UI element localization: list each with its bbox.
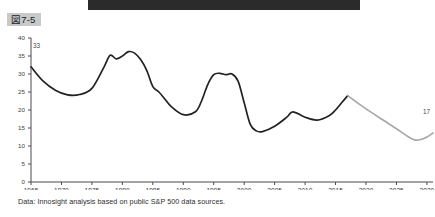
- data-point-label: 17: [423, 108, 431, 115]
- x-tick-label: 2015: [328, 187, 343, 190]
- x-tick-label: 1985: [145, 187, 160, 190]
- figure-root: 図7-5 0510152025303540 196519701975198019…: [0, 0, 435, 217]
- y-axis-ticks: 0510152025303540: [18, 34, 31, 185]
- series-line-historical: [31, 52, 348, 133]
- y-tick-label: 15: [18, 124, 25, 131]
- source-caption: Data: Innosight analysis based on public…: [18, 197, 225, 206]
- x-axis-ticks: 1965197019751980198519901995200020052010…: [24, 182, 435, 190]
- y-tick-label: 25: [18, 88, 25, 95]
- chart-svg: 0510152025303540 19651970197519801985199…: [0, 30, 435, 190]
- y-tick-label: 40: [18, 34, 25, 41]
- x-tick-label: 1970: [54, 187, 69, 190]
- x-tick-label: 2030: [420, 187, 435, 190]
- data-point-label: 33: [33, 42, 41, 49]
- y-tick-label: 10: [18, 142, 25, 149]
- y-tick-label: 30: [18, 70, 25, 77]
- y-tick-label: 20: [18, 106, 25, 113]
- x-tick-label: 1975: [85, 187, 100, 190]
- series-line-projected: [348, 96, 433, 140]
- x-tick-label: 1965: [24, 187, 39, 190]
- x-tick-label: 2000: [237, 187, 252, 190]
- x-tick-label: 1995: [206, 187, 221, 190]
- x-tick-label: 2020: [359, 187, 374, 190]
- x-tick-label: 1990: [176, 187, 191, 190]
- data-point-labels: 3317: [33, 42, 431, 115]
- x-tick-label: 2010: [298, 187, 313, 190]
- x-tick-label: 2025: [389, 187, 404, 190]
- y-tick-label: 5: [22, 160, 26, 167]
- line-chart: 0510152025303540 19651970197519801985199…: [0, 30, 435, 190]
- x-tick-label: 2005: [267, 187, 282, 190]
- y-tick-label: 0: [22, 178, 26, 185]
- x-tick-label: 1980: [115, 187, 130, 190]
- y-tick-label: 35: [18, 52, 25, 59]
- figure-tag-label: 図7-5: [7, 13, 41, 26]
- top-banner-strip: [88, 0, 360, 10]
